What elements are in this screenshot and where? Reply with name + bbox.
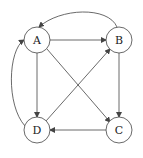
node-a: A <box>24 27 50 53</box>
node-d: D <box>24 117 50 143</box>
node-c-label: C <box>115 124 123 137</box>
node-c: C <box>106 117 132 143</box>
node-d-label: D <box>33 124 42 137</box>
graph-diagram: A B C D <box>0 0 143 158</box>
node-a-label: A <box>32 34 42 47</box>
edge-d-to-a-curved <box>11 40 25 126</box>
edge-b-to-a-curved <box>39 12 117 27</box>
edge-d-to-b <box>46 49 110 121</box>
node-b-label: B <box>115 34 123 47</box>
node-b: B <box>106 27 132 53</box>
graph-svg: A B C D <box>0 0 143 158</box>
